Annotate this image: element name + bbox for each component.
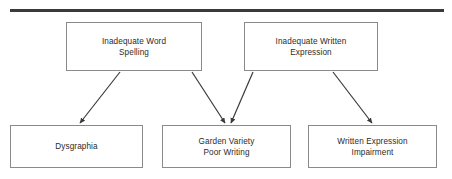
edge-spelling-to-garden-variety [192, 72, 225, 123]
edge-written-to-impairment [333, 72, 372, 123]
node-garden-variety-poor-writing[interactable]: Garden Variety Poor Writing [162, 125, 291, 168]
node-label: Inadequate Word Spelling [99, 36, 169, 58]
node-dysgraphia[interactable]: Dysgraphia [10, 125, 143, 168]
node-label: Inadequate Written Expression [273, 36, 350, 58]
node-label: Written Expression Impairment [334, 136, 410, 158]
node-inadequate-word-spelling[interactable]: Inadequate Word Spelling [66, 22, 202, 71]
node-label: Dysgraphia [52, 141, 100, 152]
node-inadequate-written-expression[interactable]: Inadequate Written Expression [244, 22, 378, 71]
node-written-expression-impairment[interactable]: Written Expression Impairment [308, 125, 437, 168]
edge-spelling-to-dysgraphia [80, 72, 120, 123]
diagram-canvas: Inadequate Word Spelling Inadequate Writ… [0, 0, 452, 179]
node-label: Garden Variety Poor Writing [196, 136, 258, 158]
edge-written-to-garden-variety [231, 72, 253, 123]
